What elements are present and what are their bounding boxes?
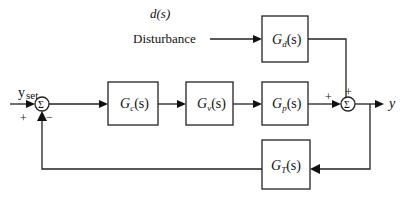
- block-gp: Gp(s): [262, 82, 308, 125]
- output-label: y: [387, 96, 396, 111]
- sum1-minus-sign: −: [46, 110, 53, 124]
- block-gc: Gc(s): [108, 82, 158, 125]
- disturbance-arrow: [210, 35, 262, 43]
- gv-to-gp-arrow: [233, 100, 262, 108]
- disturbance-label: Disturbance: [133, 31, 196, 46]
- block-diagram: d(s) Disturbance Gd(s) yset + Σ − Gc(s): [0, 0, 411, 199]
- gc-to-gv-arrow: [158, 100, 186, 108]
- block-gt: GT(s): [262, 140, 310, 189]
- svg-text:Gd(s): Gd(s): [272, 32, 302, 49]
- svg-text:Gc(s): Gc(s): [120, 96, 149, 113]
- svg-text:Gv(s): Gv(s): [197, 96, 226, 113]
- summing-junction-2: Σ: [341, 97, 355, 111]
- summing-junction-1: Σ: [35, 97, 49, 111]
- sum2-plus-left: +: [325, 90, 332, 104]
- input-label: yset: [18, 85, 38, 101]
- sum1-to-gc-arrow: [49, 100, 108, 108]
- svg-text:Σ: Σ: [38, 99, 44, 110]
- block-gd: Gd(s): [262, 16, 308, 62]
- disturbance-symbol: d(s): [150, 6, 170, 21]
- input-line: [10, 100, 35, 108]
- svg-text:Gp(s): Gp(s): [272, 96, 302, 113]
- svg-text:Σ: Σ: [344, 99, 350, 110]
- gd-to-sum2-line: [308, 39, 346, 97]
- sum1-plus-sign: +: [20, 111, 27, 125]
- feedback-to-gt-arrow: [310, 104, 370, 174]
- svg-text:GT(s): GT(s): [271, 158, 301, 175]
- block-gv: Gv(s): [186, 82, 233, 125]
